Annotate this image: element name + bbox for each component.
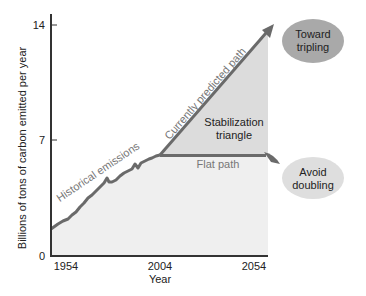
- y-tick-label-14: 14: [33, 19, 45, 31]
- x-axis-title: Year: [149, 273, 172, 285]
- avoid-doubling-label-line1: Avoid: [299, 166, 326, 178]
- x-tick-label-1954: 1954: [54, 260, 78, 272]
- x-tick-label-2054: 2054: [242, 260, 266, 272]
- toward-tripling-label-line2: tripling: [297, 41, 329, 53]
- y-axis-title: Billions of tons of carbon emitted per y…: [16, 46, 28, 249]
- toward-tripling-label-line1: Toward: [295, 28, 330, 40]
- y-tick-label-7: 7: [39, 134, 45, 146]
- chart-canvas: 14 7 0 1954 2004 2054 Year Billions of t…: [0, 0, 366, 296]
- stabilization-triangle-label-line2: triangle: [216, 129, 252, 141]
- y-tick-label-0: 0: [39, 250, 45, 262]
- avoid-doubling-ellipse: [282, 157, 344, 199]
- flat-path-label: Flat path: [197, 158, 240, 170]
- stabilization-triangle-label-line1: Stabilization: [204, 116, 263, 128]
- avoid-doubling-label-line2: doubling: [292, 179, 334, 191]
- x-tick-label-2004: 2004: [148, 260, 172, 272]
